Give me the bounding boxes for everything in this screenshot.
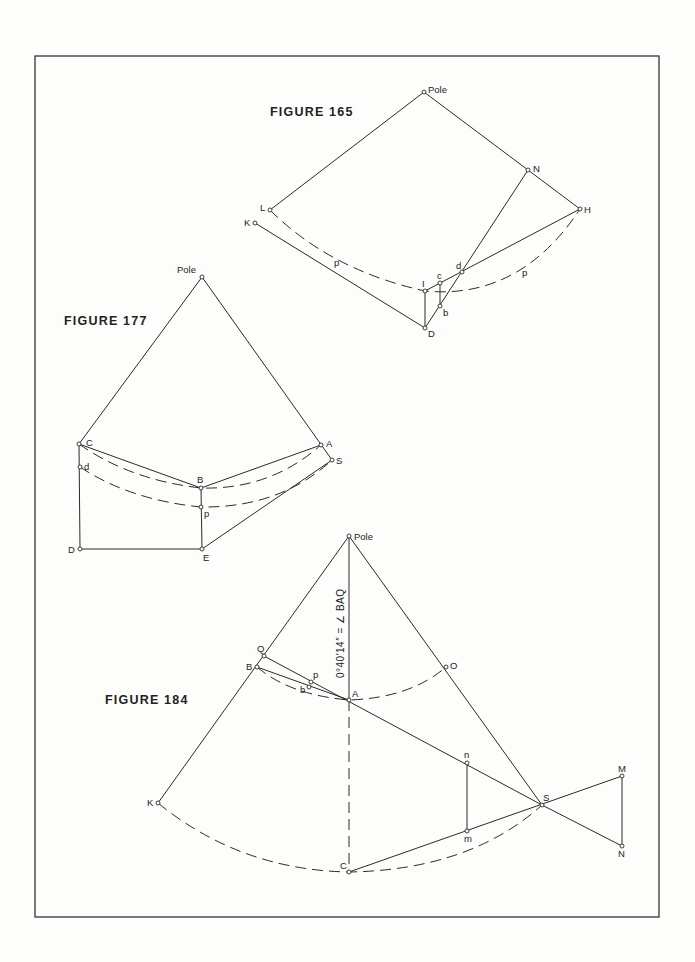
figure-177: FIGURE 177 Pole C d D B p E A S bbox=[64, 264, 342, 563]
point-L bbox=[268, 208, 272, 212]
point-Q bbox=[262, 654, 266, 658]
label-D: D bbox=[428, 328, 435, 339]
point-S bbox=[540, 803, 544, 807]
point-A bbox=[319, 443, 323, 447]
arc-K-C-S bbox=[158, 803, 542, 872]
label-m: m bbox=[464, 833, 472, 844]
point-S bbox=[330, 458, 334, 462]
label-b: b bbox=[443, 307, 448, 318]
figure-165: FIGURE 165 Pole N H L K p p I c d b D bbox=[244, 84, 591, 339]
line-pole-S bbox=[349, 536, 542, 805]
label-p-right: p bbox=[522, 267, 527, 278]
label-M: M bbox=[618, 763, 626, 774]
line-C-D bbox=[79, 444, 80, 549]
point-pole bbox=[347, 534, 351, 538]
label-N: N bbox=[618, 848, 625, 859]
line-pole-S bbox=[202, 277, 332, 460]
point-b bbox=[438, 304, 442, 308]
point-C bbox=[347, 870, 351, 874]
label-B: B bbox=[246, 661, 252, 672]
point-b bbox=[307, 685, 311, 689]
line-C-M bbox=[349, 776, 622, 872]
label-b: b bbox=[300, 684, 305, 695]
line-B-A bbox=[201, 445, 321, 488]
label-C: C bbox=[340, 860, 347, 871]
line-Q-S bbox=[264, 656, 542, 805]
label-A: A bbox=[352, 688, 359, 699]
page-frame bbox=[35, 56, 659, 917]
label-E: E bbox=[203, 552, 209, 563]
arc-p-L-H bbox=[270, 209, 580, 292]
point-A bbox=[347, 698, 351, 702]
label-L: L bbox=[260, 202, 265, 213]
label-c: c bbox=[437, 270, 442, 281]
figure-165-title: FIGURE 165 bbox=[270, 105, 354, 119]
point-K bbox=[156, 801, 160, 805]
point-pole bbox=[200, 275, 204, 279]
label-p: p bbox=[313, 669, 318, 680]
label-p-left: p bbox=[334, 257, 339, 268]
label-S: S bbox=[336, 455, 342, 466]
label-Q: Q bbox=[257, 643, 264, 654]
point-C bbox=[77, 442, 81, 446]
line-S-N bbox=[542, 805, 622, 846]
point-H bbox=[578, 207, 582, 211]
label-pole: Pole bbox=[428, 84, 447, 95]
point-c bbox=[438, 281, 442, 285]
line-I-H bbox=[425, 209, 580, 291]
figure-177-title: FIGURE 177 bbox=[64, 314, 148, 328]
point-I bbox=[423, 289, 427, 293]
point-n bbox=[465, 761, 469, 765]
line-pole-K bbox=[158, 536, 349, 803]
label-D: D bbox=[68, 544, 75, 555]
point-d bbox=[78, 465, 82, 469]
line-pole-H bbox=[424, 92, 580, 209]
label-n: n bbox=[464, 749, 469, 760]
point-K bbox=[253, 221, 257, 225]
label-K: K bbox=[244, 217, 251, 228]
point-pole bbox=[422, 90, 426, 94]
label-N: N bbox=[533, 163, 540, 174]
point-D bbox=[78, 547, 82, 551]
label-p: p bbox=[204, 508, 209, 519]
label-C: C bbox=[86, 437, 93, 448]
label-A: A bbox=[326, 438, 333, 449]
label-d: d bbox=[456, 260, 461, 271]
figure-184-title: FIGURE 184 bbox=[105, 693, 189, 707]
point-p bbox=[199, 505, 203, 509]
arc-d-p-S bbox=[80, 460, 332, 507]
point-D bbox=[423, 326, 427, 330]
label-pole: Pole bbox=[177, 264, 196, 275]
label-S: S bbox=[543, 792, 549, 803]
label-O: O bbox=[450, 660, 457, 671]
figure-184: FIGURE 184 Pole Q B p b A O n m bbox=[105, 531, 626, 874]
line-E-S bbox=[202, 460, 332, 549]
point-p bbox=[309, 680, 313, 684]
label-I: I bbox=[422, 278, 425, 289]
label-d: d bbox=[84, 461, 89, 472]
point-E bbox=[200, 547, 204, 551]
line-pole-C bbox=[79, 277, 202, 444]
point-B bbox=[199, 486, 203, 490]
line-C-B bbox=[79, 444, 201, 488]
line-K-D bbox=[255, 223, 425, 328]
angle-annotation: 0°40′14″ = ∠ BAQ bbox=[335, 588, 346, 678]
point-N bbox=[526, 168, 530, 172]
label-pole: Pole bbox=[354, 531, 373, 542]
line-B-E bbox=[201, 488, 202, 549]
point-M bbox=[620, 774, 624, 778]
diagram-sheet: FIGURE 165 Pole N H L K p p I c d b D bbox=[0, 0, 695, 962]
label-H: H bbox=[584, 204, 591, 215]
label-B: B bbox=[197, 474, 203, 485]
label-K: K bbox=[147, 797, 154, 808]
point-O bbox=[444, 665, 448, 669]
point-B bbox=[255, 665, 259, 669]
